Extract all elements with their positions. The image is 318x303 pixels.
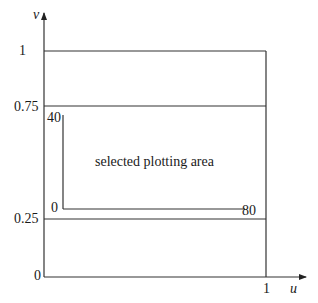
- v-axis-label: v: [33, 8, 39, 22]
- selected-area-label-bottom-right: 80: [242, 204, 256, 218]
- u-axis-label: u: [290, 282, 297, 296]
- v-tick-label-0: 0: [34, 269, 41, 283]
- selected-area-caption: selected plotting area: [95, 155, 214, 169]
- v-tick-label-1: 1: [19, 44, 26, 58]
- selected-area-label-top-left: 40: [47, 111, 61, 125]
- v-tick-label-0-25: 0.25: [14, 212, 39, 226]
- diagram-canvas: [0, 0, 318, 303]
- selected-area-label-bottom-left: 0: [51, 201, 58, 215]
- u-tick-label-1: 1: [263, 282, 270, 296]
- v-tick-label-0-75: 0.75: [14, 100, 39, 114]
